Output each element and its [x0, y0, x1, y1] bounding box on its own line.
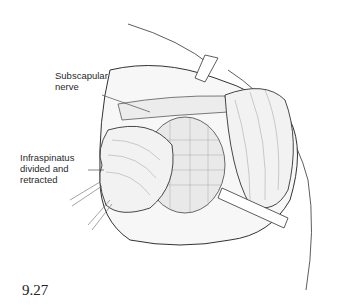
label-line: divided and — [20, 163, 74, 174]
label-infraspinatus: Infraspinatus divided and retracted — [20, 152, 74, 185]
label-line: retracted — [20, 174, 74, 185]
figure-number: 9.27 — [22, 282, 48, 299]
label-line: nerve — [55, 81, 108, 92]
label-line: Subscapular — [55, 70, 108, 81]
label-line: Infraspinatus — [20, 152, 74, 163]
label-subscapular-nerve: Subscapular nerve — [55, 70, 108, 92]
